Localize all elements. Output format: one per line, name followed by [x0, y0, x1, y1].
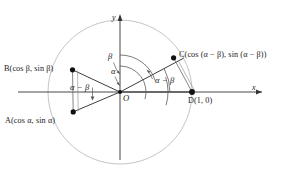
unit-circle-diagram: B(cos β, sin β) A(cos α, sin α) C(cos (α… [0, 0, 291, 175]
radius-OA [73, 92, 120, 112]
point-label-b: B(cos β, sin β) [4, 65, 53, 73]
diagram-canvas [0, 0, 291, 175]
angle-label-beta: β [108, 52, 112, 61]
angle-label-alpha-minus-beta-right: α − β [155, 76, 174, 85]
point-label-c: C(cos (α − β), sin (α − β)) [179, 51, 267, 59]
point-marker-c [171, 55, 176, 60]
angle-label-alpha: α [111, 67, 116, 76]
origin-label: O [123, 94, 129, 103]
point-label-d: D(1, 0) [188, 97, 212, 105]
y-axis-label: y [112, 14, 116, 22]
point-marker-d [189, 89, 195, 95]
point-marker-origin [118, 90, 122, 94]
x-axis-label: x [252, 84, 256, 92]
y-axis-arrowhead [118, 14, 123, 21]
angle-label-alpha-minus-beta-left: α − β [70, 83, 89, 92]
arc-beta [120, 55, 155, 81]
leader-amb-left-arrowhead [91, 97, 95, 101]
chord-CD [174, 58, 192, 92]
point-label-a: A(cos α, sin α) [5, 117, 55, 125]
point-marker-a [71, 109, 76, 114]
x-axis-arrowhead [256, 90, 262, 95]
point-marker-b [70, 67, 75, 72]
